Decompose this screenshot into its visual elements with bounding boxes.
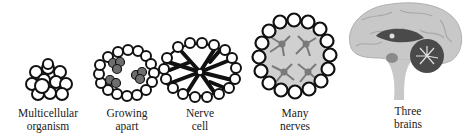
label-nerve-cell: Nerve cell [155, 107, 245, 133]
growing-apart-icon [94, 45, 159, 101]
label-many-nerves: Many nerves [250, 107, 340, 133]
multicellular-cluster-icon [26, 59, 72, 100]
evolution-diagram: Multicellular organism Growing apart Ner… [0, 0, 468, 140]
label-multicellular: Multicellular organism [3, 107, 93, 133]
label-line: Nerve [155, 107, 245, 120]
nerve-cell-icon [159, 38, 241, 102]
label-line: nerves [250, 120, 340, 133]
label-line: Many [250, 107, 340, 120]
label-line: brains [363, 118, 453, 131]
label-line: Three [363, 105, 453, 118]
brain-icon [349, 3, 461, 100]
many-nerves-icon [253, 14, 337, 99]
label-three-brains: Three brains [363, 105, 453, 131]
label-line: Multicellular [3, 107, 93, 120]
label-line: organism [3, 120, 93, 133]
label-line: cell [155, 120, 245, 133]
